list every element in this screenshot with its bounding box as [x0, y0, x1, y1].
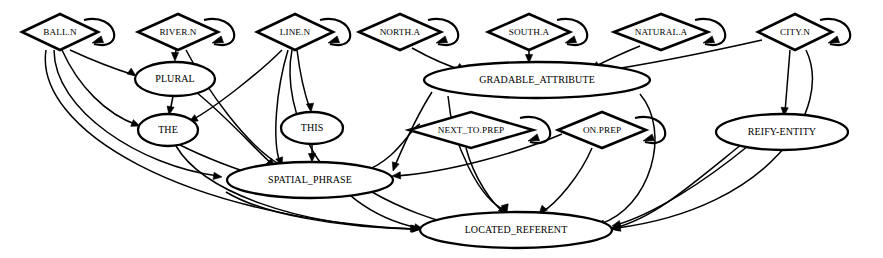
edge-next_to_prep-to-located_referent [466, 148, 507, 214]
node-label: SPATIAL_PHRASE [268, 174, 352, 185]
node-label: BALL.N [43, 27, 77, 37]
node-label: LOCATED_REFERENT [465, 224, 568, 235]
node-label: GRADABLE_ATTRIBUTE [479, 74, 595, 85]
node-next_to_prep[interactable]: NEXT_TO.PREP [409, 112, 533, 148]
node-label: THE [158, 124, 178, 135]
node-label: NEXT_TO.PREP [438, 125, 505, 135]
edge-ball_n-to-the [62, 50, 140, 126]
node-label: CITY.N [780, 27, 810, 37]
edge-line_n-to-this [297, 50, 314, 112]
node-label: PLURAL [155, 73, 195, 84]
node-label: LINE.N [280, 27, 311, 37]
node-on_prep[interactable]: ON.PREP [558, 112, 646, 148]
edge-reify_entity-to-located_referent [612, 146, 748, 227]
node-gradable_attribute[interactable]: GRADABLE_ATTRIBUTE [424, 62, 650, 98]
node-plural[interactable]: PLURAL [135, 62, 215, 96]
node-label: SOUTH.A [509, 27, 550, 37]
node-located_referent[interactable]: LOCATED_REFERENT [420, 212, 612, 248]
edge-plural-to-the [167, 96, 174, 115]
node-label: NATURAL.A [635, 27, 688, 37]
node-label: REIFY-ENTITY [748, 126, 816, 137]
dependency-graph: BALL.NRIVER.NLINE.NNORTH.ASOUTH.ANATURAL… [0, 0, 883, 258]
node-label: NORTH.A [380, 27, 421, 37]
node-label: ON.PREP [583, 125, 621, 135]
diagram-canvas: BALL.NRIVER.NLINE.NNORTH.ASOUTH.ANATURAL… [0, 0, 883, 258]
node-spatial_phrase[interactable]: SPATIAL_PHRASE [227, 162, 393, 198]
edge-ball_n-to-plural [70, 50, 136, 76]
edge-ball_n-to-located_referent [45, 50, 421, 232]
edge-plural-to-spatial_phrase [196, 92, 275, 167]
node-this[interactable]: THIS [281, 112, 343, 144]
edge-reify_entity-to-located_referent [610, 144, 742, 231]
edge-on_prep-to-located_referent [539, 148, 592, 214]
node-label: THIS [301, 122, 324, 133]
node-natural_a[interactable]: NATURAL.A [614, 14, 708, 50]
edge-river_n-to-plural [171, 50, 178, 61]
node-layer: BALL.NRIVER.NLINE.NNORTH.ASOUTH.ANATURAL… [22, 14, 848, 248]
edge-city_n-to-reify_entity [781, 50, 790, 116]
node-the[interactable]: THE [138, 114, 198, 146]
node-label: RIVER.N [159, 27, 196, 37]
edge-line_n-to-spatial_phrase [276, 50, 288, 166]
node-reify_entity[interactable]: REIFY-ENTITY [716, 114, 848, 150]
